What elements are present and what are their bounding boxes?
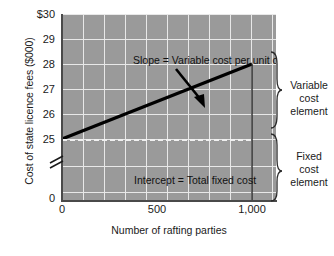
y-axis-line (61, 14, 63, 201)
x-tick-label-1000: 1,000 (229, 203, 275, 215)
x-tick-label-0: 0 (39, 203, 85, 215)
variable-cost-line-1: Variable (284, 79, 334, 92)
x-axis-line (61, 200, 277, 202)
fixed-cost-line-1: Fixed (284, 150, 334, 163)
variable-cost-line-3: element (284, 105, 334, 118)
intercept-annotation-text: Intercept = Total fixed cost (134, 174, 256, 186)
cost-line-svg (62, 14, 276, 200)
variable-cost-element-label: Variable cost element (284, 79, 334, 118)
slope-annotation-text: Slope = Variable cost per unit of activi… (133, 54, 276, 66)
axis-break-icon (48, 152, 68, 172)
fixed-cost-line-3: element (284, 176, 334, 189)
cost-element-brackets-icon (268, 14, 284, 204)
y-tick-label-29: 29 (43, 33, 55, 45)
plot-area: Slope = Variable cost per unit of activi… (62, 14, 276, 200)
fixed-cost-element-label: Fixed cost element (284, 150, 334, 189)
y-tick-label-25: 25 (43, 133, 55, 145)
y-tick-label-27: 27 (43, 83, 55, 95)
y-tick-label-26: 26 (43, 108, 55, 120)
total-cost-line (62, 64, 252, 139)
cost-behavior-chart: Cost of state licence fees ($000) $30 29… (0, 0, 334, 256)
slope-arrow-icon (172, 66, 212, 112)
y-tick-label-30: $30 (37, 8, 55, 20)
x-axis-title: Number of rafting parties (62, 224, 276, 236)
y-tick-label-28: 28 (43, 58, 55, 70)
x-tick-label-500: 500 (134, 203, 180, 215)
variable-cost-line-2: cost (284, 92, 334, 105)
y-axis-title: Cost of state licence fees ($000) (23, 11, 35, 211)
fixed-cost-line-2: cost (284, 163, 334, 176)
